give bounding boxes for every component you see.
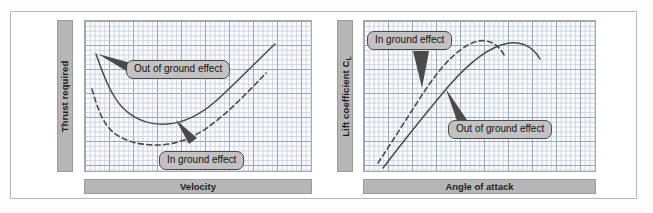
y-axis-label-thrust: Thrust required <box>57 20 73 172</box>
y-axis-label-lift-coefficient-text: Lift coefficient CL <box>340 56 351 137</box>
x-axis-label-velocity: Velocity <box>84 179 312 194</box>
callout-out-of-ground-effect[interactable]: Out of ground effect <box>448 120 552 139</box>
y-axis-label-lift-coefficient: Lift coefficient CL <box>337 20 353 172</box>
figure-card: Thrust required Out of ground effect <box>10 11 637 199</box>
callout-in-ground-effect-label: In ground effect <box>167 154 236 165</box>
x-axis-label-angle-of-attack-text: Angle of attack <box>445 181 513 192</box>
out-of-ground-effect-tail <box>363 20 596 172</box>
y-axis-label-thrust-text: Thrust required <box>60 60 71 132</box>
lift-coefficient-panel: Lift coefficient CL In ground effect <box>326 12 638 200</box>
x-axis-label-velocity-text: Velocity <box>180 181 216 192</box>
in-ground-effect-tail <box>84 20 312 172</box>
x-axis-label-angle-of-attack: Angle of attack <box>363 179 596 194</box>
callout-in-ground-effect[interactable]: In ground effect <box>159 151 244 170</box>
thrust-required-panel: Thrust required Out of ground effect <box>11 12 326 200</box>
callout-out-of-ground-effect-label: Out of ground effect <box>456 123 544 134</box>
figure-root: Thrust required Out of ground effect <box>0 0 653 213</box>
